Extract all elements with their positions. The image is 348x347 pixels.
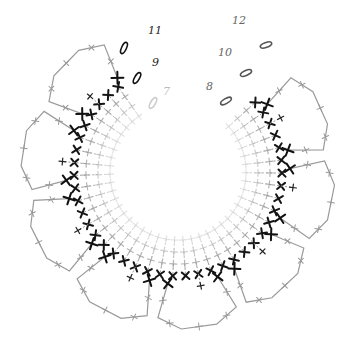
stitch-icon [106,56,116,66]
stitch-icon [76,206,89,219]
stitch-icon [166,269,180,283]
stitch-icon [239,247,250,258]
stitch-icon [316,103,325,112]
stitch-icon [228,263,240,275]
stitch-icon [59,158,67,166]
stitch-icon [55,117,63,125]
stitch-icon [197,282,205,290]
stitch-icon [73,226,83,236]
stitch-icon [85,91,95,101]
stitch-icon [283,236,293,246]
chain-stitch-icon [132,72,142,85]
stitch-icon [296,256,306,266]
stitch-icon [216,259,229,272]
petal-outline [234,234,303,302]
stitch-icon [84,236,99,251]
stitch-icon [79,286,88,295]
stitch-icon [265,228,277,240]
stitch-icon [76,108,88,120]
stitch-icon [272,141,286,155]
stitch-icon [159,297,167,305]
stitch-icon [86,43,96,53]
chain-stitch-icon [220,96,233,106]
petal-outline [31,199,92,271]
stitch-icon [103,90,113,100]
stitch-icon [61,103,71,113]
row-label: 8 [206,80,213,93]
stitch-icon [223,288,231,296]
stitch-icon [166,319,174,327]
chain-stitch-icon [240,68,253,77]
stitch-icon [263,216,275,228]
stitch-icon [269,129,282,142]
row-label: 7 [163,85,170,98]
stitch-icon [275,166,289,180]
chain-stitch-icon [119,42,128,55]
chain-stitch-icon [148,97,158,110]
stitch-icon [90,230,101,241]
stitch-icon [179,269,193,283]
stitch-icon [291,224,299,232]
crochet-chart-svg [0,0,348,347]
stitch-icon [250,97,261,108]
stitch-icon [69,143,83,157]
stitch-icon [97,249,112,264]
stitch-icon [99,240,109,250]
row-label: 11 [148,24,162,37]
stitch-icon [118,255,130,267]
crochet-chart [0,0,348,347]
stitch-icon [108,248,119,259]
stitch-icon [45,181,53,189]
row-label: 12 [232,14,246,27]
stitch-icon [126,273,135,282]
stitch-icon [235,281,245,291]
stitch-icon [195,323,203,331]
stitch-icon [276,113,285,122]
stitch-icon [53,260,62,269]
stitch-icon [111,72,123,84]
stitch-icon [325,169,333,177]
stitch-icon [257,107,269,119]
stitch-icon [23,174,31,182]
stitch-icon [46,84,56,94]
stitch-icon [289,184,297,192]
petal-outline [49,45,117,114]
row-label: 10 [218,46,232,59]
chain-stitch-icon [260,41,273,50]
stitch-icon [20,144,28,152]
stitch-icon [101,305,110,314]
stitch-icon [297,80,306,89]
stitch-icon [258,246,268,256]
stitch-icon [79,119,92,132]
stitch-icon [34,238,43,247]
petal-outline [267,78,327,150]
stitch-icon [272,192,286,206]
row-label: 9 [152,56,159,69]
stitch-icon [67,168,81,182]
